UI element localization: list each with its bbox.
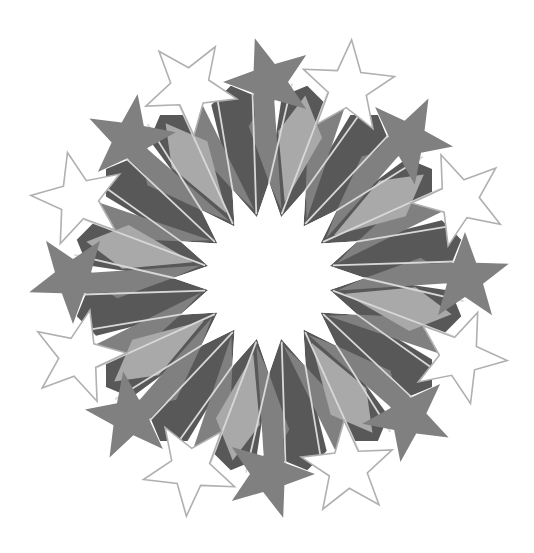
artboard [0, 0, 534, 553]
center-star-void [173, 182, 365, 374]
star-rosette-figure [0, 0, 534, 553]
